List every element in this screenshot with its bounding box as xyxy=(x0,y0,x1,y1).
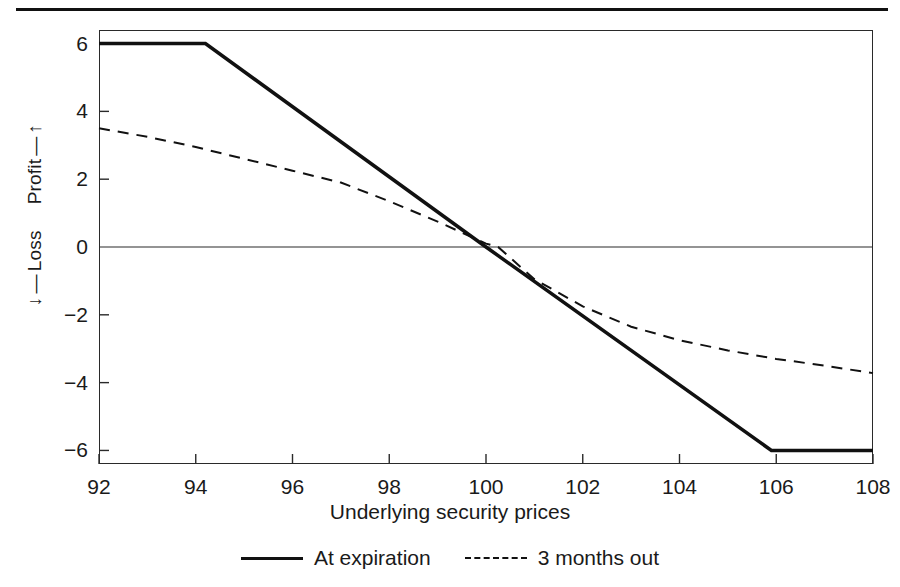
legend-item-3-months-out: 3 months out xyxy=(465,546,659,570)
series-line-3-months-out xyxy=(99,128,873,373)
plot-canvas xyxy=(0,0,900,587)
legend-dashed-line-icon xyxy=(465,557,527,559)
legend-label-at-expiration: At expiration xyxy=(314,546,431,570)
legend-item-at-expiration: At expiration xyxy=(241,546,431,570)
legend-label-3-months-out: 3 months out xyxy=(538,546,659,570)
legend: At expiration 3 months out xyxy=(0,546,900,570)
legend-solid-line-icon xyxy=(241,557,303,560)
x-axis-title: Underlying security prices xyxy=(0,500,900,524)
figure-container: ↓ — Loss Profit — ↑ 6420−2−4−6 929496981… xyxy=(0,0,900,587)
